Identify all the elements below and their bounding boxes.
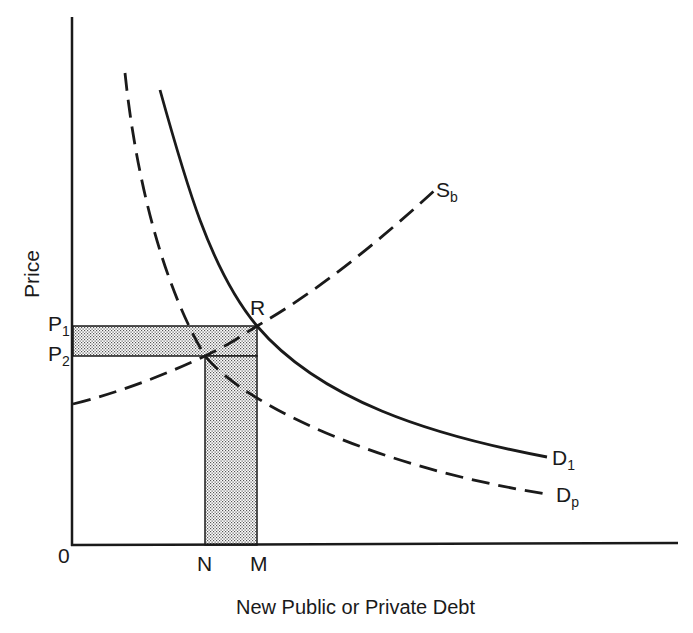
quantity-label-n: N: [197, 553, 212, 574]
curve-label-dp: Dp: [556, 484, 579, 509]
curve-label-sb: Sb: [436, 179, 458, 204]
shaded-region: [73, 326, 257, 545]
origin-label: 0: [58, 545, 70, 566]
diagram-canvas: [0, 0, 693, 633]
x-axis: [71, 543, 678, 545]
curve-label-d1: D1: [552, 447, 575, 472]
point-label-r: R: [250, 297, 265, 318]
demand-curve-dp: [125, 73, 547, 494]
quantity-label-m: M: [250, 553, 268, 574]
price-label-p1: P1: [48, 313, 70, 338]
x-axis-label: New Public or Private Debt: [236, 596, 475, 619]
y-axis-label: Price: [20, 244, 44, 304]
price-label-p2: P2: [48, 343, 70, 368]
